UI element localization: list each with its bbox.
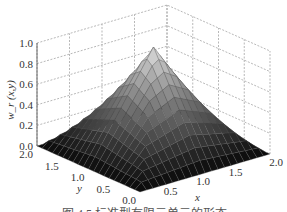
z-tick-label: 0.8 xyxy=(19,58,33,70)
z-axis-label: w_r (x,y) xyxy=(4,80,17,120)
x-tick-label: 1.5 xyxy=(229,166,243,178)
y-axis-label: y xyxy=(76,182,82,194)
x-tick-label: 0.5 xyxy=(164,185,178,197)
z-tick-label: 0.4 xyxy=(19,99,33,111)
x-tick-label: 2.0 xyxy=(269,156,283,168)
z-tick-label: 0.2 xyxy=(19,119,33,131)
z-tick-label: 1.0 xyxy=(19,37,33,49)
y-tick-label: 2.0 xyxy=(19,148,33,160)
y-tick-label: 0.5 xyxy=(97,183,111,195)
x-axis-label: x xyxy=(194,191,200,203)
z-tick-label: 0.6 xyxy=(19,78,33,90)
surface-chart: 0.00.20.40.60.81.00.00.51.01.52.00.51.01… xyxy=(0,0,287,212)
y-tick-label: 1.5 xyxy=(45,160,59,172)
x-tick-label: 1.0 xyxy=(196,175,210,187)
figure-caption: 图 4.5 标准型有限元单元的形态 xyxy=(62,204,227,212)
